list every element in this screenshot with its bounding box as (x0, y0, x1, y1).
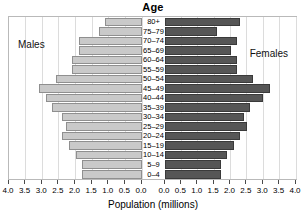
axis-tick (229, 180, 230, 184)
bar-females-75–79 (165, 27, 217, 36)
table-row (165, 17, 296, 27)
table-row (165, 122, 296, 132)
axis-tick (164, 180, 165, 184)
axis-tick-label: 0.0 (135, 185, 146, 196)
axis-tick (213, 180, 214, 184)
table-row (9, 160, 142, 170)
bar-females-35–39 (165, 103, 250, 112)
bar-males-55–59 (72, 65, 142, 74)
axis-tick-label: 0.5 (175, 185, 186, 196)
females-panel: Females (165, 17, 296, 179)
axis-tick-label: 2.5 (240, 185, 251, 196)
table-row (9, 150, 142, 160)
table-row (165, 112, 296, 122)
age-group-label: 70–74 (142, 36, 165, 46)
age-group-label: 30–34 (142, 112, 165, 122)
table-row (9, 17, 142, 27)
age-label-column: 80+75–7970–7465–6960–6455–5950–5445–4940… (142, 17, 165, 179)
bar-females-55–59 (165, 65, 237, 74)
bar-females-25–29 (165, 122, 247, 131)
table-row (165, 84, 296, 94)
age-group-label: 50–54 (142, 74, 165, 84)
bar-males-50–54 (56, 75, 142, 84)
bar-males-80+ (105, 18, 142, 27)
axis-tick-label: 3.5 (19, 185, 30, 196)
axis-tick (57, 180, 58, 184)
bar-females-70–74 (165, 37, 237, 46)
table-row (9, 74, 142, 84)
axis-tick (74, 180, 75, 184)
age-group-label: 40–44 (142, 93, 165, 103)
axis-tick-label: 1.0 (102, 185, 113, 196)
bar-females-10–14 (165, 151, 227, 160)
axis-tick (295, 180, 296, 184)
bar-males-30–34 (62, 113, 142, 122)
plot-area: Males 80+75–7970–7465–6960–6455–5950–544… (8, 16, 297, 180)
axis-tick (24, 180, 25, 184)
bar-females-5–9 (165, 160, 221, 169)
bar-females-0–4 (165, 170, 221, 179)
table-row (165, 160, 296, 170)
age-group-label: 35–39 (142, 103, 165, 113)
bar-males-20–24 (62, 132, 142, 141)
bar-males-40–44 (46, 94, 142, 103)
females-bar-rows (165, 17, 296, 179)
axis-tick-label: 1.5 (208, 185, 219, 196)
axis-tick (107, 180, 108, 184)
age-group-label: 55–59 (142, 65, 165, 75)
age-group-label: 5–9 (142, 160, 165, 170)
table-row (165, 93, 296, 103)
age-group-label: 60–64 (142, 55, 165, 65)
axis-tick (180, 180, 181, 184)
table-row (165, 74, 296, 84)
bar-females-20–24 (165, 132, 240, 141)
axis-tick (141, 180, 142, 184)
axis-tick-label: 1.5 (86, 185, 97, 196)
bar-males-65–69 (79, 46, 142, 55)
age-group-label: 80+ (142, 17, 165, 27)
table-row (165, 27, 296, 37)
bar-males-70–74 (79, 37, 142, 46)
table-row (9, 112, 142, 122)
age-group-label: 20–24 (142, 131, 165, 141)
bar-males-25–29 (66, 122, 142, 131)
bar-females-30–34 (165, 113, 244, 122)
table-row (9, 65, 142, 75)
table-row (9, 27, 142, 37)
bar-females-80+ (165, 18, 240, 27)
axis-tick-label: 2.5 (52, 185, 63, 196)
axis-tick-label: 4.0 (2, 185, 13, 196)
table-row (165, 103, 296, 113)
age-group-label: 25–29 (142, 122, 165, 132)
axis-tick (245, 180, 246, 184)
bar-females-65–69 (165, 46, 231, 55)
table-row (165, 170, 296, 180)
axis-tick (124, 180, 125, 184)
bar-females-50–54 (165, 75, 253, 84)
x-axis-females-ticklabels: 0.00.51.01.52.02.53.03.54.0 (164, 185, 295, 196)
bar-males-75–79 (99, 27, 142, 36)
axis-tick (262, 180, 263, 184)
table-row (9, 141, 142, 151)
bar-males-5–9 (82, 160, 142, 169)
axis-tick-label: 3.0 (257, 185, 268, 196)
x-axis-label: Population (millions) (0, 199, 306, 211)
table-row (9, 122, 142, 132)
axis-tick (196, 180, 197, 184)
males-series-label: Males (18, 39, 45, 50)
age-group-label: 65–69 (142, 46, 165, 56)
table-row (9, 170, 142, 180)
males-panel: Males (9, 17, 142, 179)
females-series-label: Females (250, 48, 288, 59)
bar-males-45–49 (39, 84, 142, 93)
bar-females-60–64 (165, 56, 237, 65)
table-row (165, 141, 296, 151)
table-row (165, 150, 296, 160)
bar-males-35–39 (52, 103, 142, 112)
table-row (165, 65, 296, 75)
x-axis-males-ticklabels: 4.03.53.02.52.01.51.00.50.0 (8, 185, 141, 196)
bar-males-0–4 (82, 170, 142, 179)
age-group-label: 10–14 (142, 150, 165, 160)
age-group-label: 0–4 (142, 170, 165, 180)
axis-tick (278, 180, 279, 184)
